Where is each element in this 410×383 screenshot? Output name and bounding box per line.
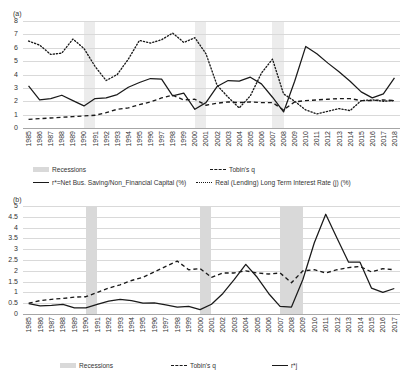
y-axis-tick-label: 5 (4, 57, 18, 64)
x-axis-tick-label: 1986 (36, 131, 43, 147)
x-axis-tick-label: 1985 (25, 317, 32, 333)
series-line (29, 46, 395, 112)
legend-a-recessions-label: Recessions (52, 166, 86, 173)
x-axis-tick-label: 1998 (169, 131, 176, 147)
x-axis-tick-label: 1998 (174, 317, 181, 333)
x-axis-line (23, 314, 400, 315)
solid-line-swatch-icon (272, 365, 288, 366)
recession-band-swatch-icon (60, 363, 76, 368)
x-axis-tick-label: 1988 (59, 317, 66, 333)
x-axis-tick-label: 1994 (125, 131, 132, 147)
x-axis-tick-label: 2008 (288, 317, 295, 333)
x-axis-tick-label: 2001 (202, 131, 209, 147)
legend-a-realrate-label: Real (Lending) Long Term Interest Rate (… (215, 179, 350, 186)
panel-b-plot-area: 00.511.522.533.544.551985198619871988198… (23, 206, 400, 314)
x-axis-tick-label: 2004 (236, 131, 243, 147)
x-axis-tick-label: 1994 (128, 317, 135, 333)
x-axis-tick-label: 2004 (242, 317, 249, 333)
x-axis-tick-label: 2017 (391, 317, 398, 333)
x-axis-tick-label: 2005 (254, 317, 261, 333)
x-axis-tick-label: 2012 (334, 317, 341, 333)
x-axis-tick-label: 1991 (94, 317, 101, 333)
x-axis-tick-label: 2015 (358, 131, 365, 147)
x-axis-tick-label: 2017 (380, 131, 387, 147)
x-axis-tick-label: 1989 (69, 131, 76, 147)
legend-a-tobinsq-label: Tobin's q (229, 166, 255, 173)
x-axis-tick-label: 2011 (322, 317, 329, 332)
legend-a-rstar-label: r*=Net Bus. Saving/Non_Financial Capital… (52, 179, 186, 186)
x-axis-tick-label: 2012 (324, 131, 331, 147)
y-axis-tick-label: 1 (4, 111, 18, 118)
y-axis-tick-label: 0 (4, 124, 18, 131)
y-axis-tick-label: 0.5 (4, 299, 18, 306)
x-axis-tick-label: 2010 (302, 131, 309, 147)
x-axis-tick-label: 1990 (80, 131, 87, 147)
series-layer (23, 21, 400, 128)
x-axis-tick-label: 1996 (147, 131, 154, 147)
x-axis-line (23, 128, 400, 129)
x-axis-tick-label: 2006 (265, 317, 272, 333)
dashed-line-swatch-icon (210, 169, 226, 170)
x-axis-tick-label: 2018 (391, 131, 398, 147)
y-axis-tick-label: 3 (4, 245, 18, 252)
series-line (29, 261, 395, 303)
x-axis-tick-label: 2002 (214, 131, 221, 147)
panel-b-legend: Recessions Tobin's q r*j (60, 362, 400, 369)
y-axis-tick-label: 4 (4, 224, 18, 231)
y-axis-tick-label: 3 (4, 84, 18, 91)
x-axis-tick-label: 2010 (311, 317, 318, 333)
x-axis-tick-label: 2007 (269, 131, 276, 147)
x-axis-tick-label: 2013 (345, 317, 352, 333)
x-axis-tick-label: 1990 (82, 317, 89, 333)
y-axis-tick-label: 4.5 (4, 213, 18, 220)
series-layer (23, 206, 400, 314)
x-axis-tick-label: 2014 (357, 317, 364, 333)
dotted-line-swatch-icon (196, 182, 212, 183)
legend-a-row-2: r*=Net Bus. Saving/Non_Financial Capital… (33, 179, 403, 186)
x-axis-tick-label: 1987 (47, 131, 54, 147)
x-axis-tick-label: 2005 (247, 131, 254, 147)
x-axis-tick-label: 1987 (48, 317, 55, 333)
y-axis-tick-label: 2.5 (4, 256, 18, 263)
x-axis-tick-label: 2002 (219, 317, 226, 333)
y-axis-tick-label: 4 (4, 71, 18, 78)
recession-band-swatch-icon (33, 167, 49, 172)
legend-b-recessions-label: Recessions (79, 362, 113, 369)
legend-a-row-1: Recessions Tobin's q (33, 166, 403, 173)
y-axis-tick-label: 2 (4, 97, 18, 104)
solid-line-swatch-icon (33, 182, 49, 183)
y-axis-tick-label: 8 (4, 17, 18, 24)
x-axis-tick-label: 2009 (291, 131, 298, 147)
x-axis-tick-label: 1986 (37, 317, 44, 333)
x-axis-tick-label: 2003 (225, 131, 232, 147)
x-axis-tick-label: 1993 (114, 131, 121, 147)
panel-a: (a) 012345678198519861987198819891990199… (0, 0, 410, 196)
x-axis-tick-label: 2001 (208, 317, 215, 333)
y-axis-tick-label: 1 (4, 288, 18, 295)
series-line (29, 95, 395, 119)
x-axis-tick-label: 1999 (180, 131, 187, 147)
x-axis-tick-label: 2007 (277, 317, 284, 333)
panel-a-legend: Recessions Tobin's q r*=Net Bus. Saving/… (33, 166, 403, 186)
x-axis-tick-label: 1992 (105, 317, 112, 333)
y-axis-tick-label: 5 (4, 202, 18, 209)
legend-b-rstarj-label: r*j (291, 362, 297, 369)
y-axis-tick-label: 1.5 (4, 278, 18, 285)
x-axis-tick-label: 1993 (117, 317, 124, 333)
x-axis-tick-label: 2000 (191, 131, 198, 147)
x-axis-tick-label: 1999 (185, 317, 192, 333)
x-axis-tick-label: 2003 (231, 317, 238, 333)
x-axis-tick-label: 2013 (336, 131, 343, 147)
y-axis-tick-label: 3.5 (4, 234, 18, 241)
x-axis-tick-label: 1989 (71, 317, 78, 333)
x-axis-tick-label: 2011 (313, 131, 320, 146)
x-axis-tick-label: 2006 (258, 131, 265, 147)
dashed-line-swatch-icon (171, 365, 187, 366)
series-line (29, 214, 395, 309)
x-axis-tick-label: 1997 (162, 317, 169, 333)
x-axis-tick-label: 1996 (151, 317, 158, 333)
x-axis-tick-label: 1988 (58, 131, 65, 147)
legend-b-row-1: Recessions Tobin's q r*j (60, 362, 400, 369)
x-axis-tick-label: 2016 (369, 131, 376, 147)
x-axis-tick-label: 2016 (379, 317, 386, 333)
